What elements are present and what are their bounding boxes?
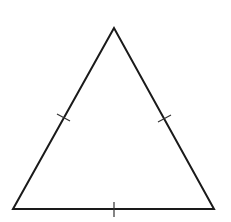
triangle-diagram [0,0,231,222]
triangle-outline [13,28,214,209]
